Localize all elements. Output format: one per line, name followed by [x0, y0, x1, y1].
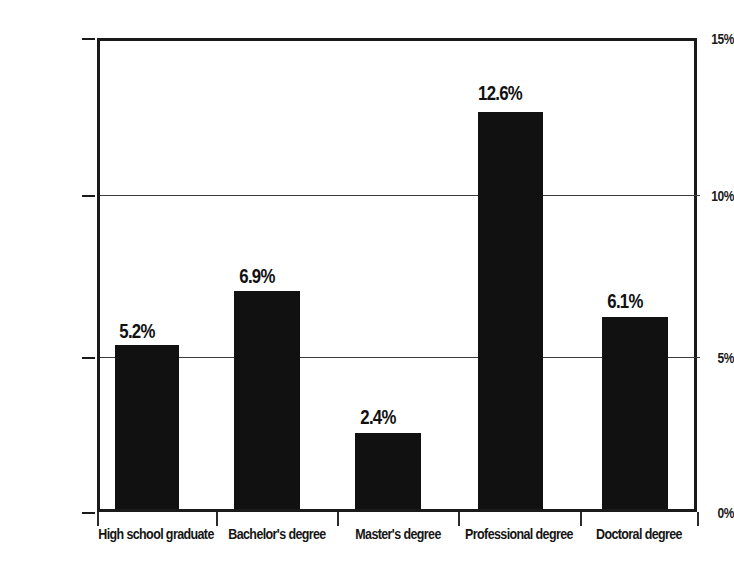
gridline-10 — [100, 195, 700, 196]
cat-label-doctoral-degree: Doctoral degree — [566, 527, 712, 542]
y-tick-dash-15 — [82, 38, 95, 40]
bar-professional-degree — [478, 112, 543, 509]
value-label-doctoral-degree: 6.1% — [579, 291, 671, 311]
bar-masters-degree — [355, 433, 421, 509]
x-tick-5 — [697, 512, 699, 526]
value-label-professional-degree: 12.6% — [454, 83, 546, 103]
x-tick-2 — [337, 512, 339, 526]
value-label-high-school-graduate: 5.2% — [91, 321, 183, 341]
y-tick-dash-0 — [82, 512, 95, 514]
value-label-bachelors-degree: 6.9% — [211, 266, 303, 286]
y-tick-dash-10 — [82, 195, 95, 197]
y-tick-dash-5 — [82, 357, 95, 359]
x-tick-3 — [458, 512, 460, 526]
bar-high-school-graduate — [115, 345, 179, 509]
x-tick-4 — [580, 512, 582, 526]
bar-chart-figure: 15% 10% 5% 0% 5.2% 6.9% 2.4% 12.6% 6.1% — [0, 0, 734, 585]
plot-area — [97, 38, 697, 512]
bar-bachelors-degree — [234, 291, 300, 509]
bar-doctoral-degree — [602, 317, 668, 509]
value-label-masters-degree: 2.4% — [332, 407, 424, 427]
x-tick-0 — [97, 512, 99, 526]
x-tick-1 — [216, 512, 218, 526]
